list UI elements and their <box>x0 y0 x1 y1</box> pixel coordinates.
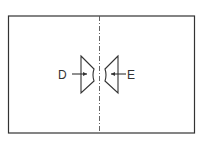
label-e: E <box>127 68 135 82</box>
arrow-d-icon <box>72 72 87 76</box>
outer-rectangle <box>9 16 195 133</box>
diagram-canvas: D E <box>0 0 213 142</box>
label-d: D <box>58 68 67 82</box>
